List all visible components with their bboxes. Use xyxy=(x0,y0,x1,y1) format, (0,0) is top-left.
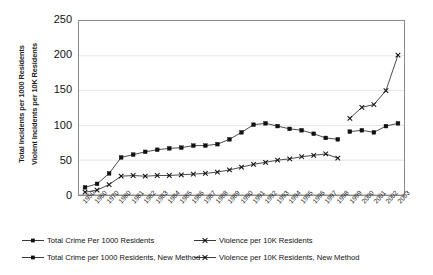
x-axis-tick-labels: 1950196019701980198119821983198419851986… xyxy=(0,196,433,230)
data-point-square xyxy=(143,150,147,154)
data-point-square xyxy=(384,124,388,128)
plot-svg xyxy=(79,21,404,195)
data-point-square xyxy=(252,123,256,127)
legend-label: Violence per 10K Residents, New Method xyxy=(219,253,359,262)
legend-item-4[interactable]: Violence per 10K Residents, New Method xyxy=(194,253,418,262)
data-point-square xyxy=(179,146,183,150)
data-point-square xyxy=(360,128,364,132)
data-point-square xyxy=(216,142,220,146)
chart-container: Total Incidents per 1000 Residents Viole… xyxy=(0,0,433,275)
data-point-square xyxy=(336,137,340,141)
series-line xyxy=(350,55,398,118)
legend-label: Total Crime Per 1000 Residents xyxy=(47,236,154,245)
legend-item-3[interactable]: Total Crime per 1000 Residents, New Meth… xyxy=(22,253,194,262)
cross-line-marker xyxy=(194,236,216,245)
y-tick-150: 150 xyxy=(38,84,72,95)
data-point-square xyxy=(276,124,280,128)
data-point-square xyxy=(372,130,376,134)
y-tick-100: 100 xyxy=(38,120,72,131)
chart-legend: Total Crime Per 1000 ResidentsViolence p… xyxy=(22,232,418,266)
series-3 xyxy=(348,121,400,134)
data-point-square xyxy=(83,185,87,189)
y-tick-200: 200 xyxy=(38,49,72,60)
data-point-square xyxy=(119,156,123,160)
data-point-square xyxy=(228,137,232,141)
data-point-square xyxy=(240,130,244,134)
data-point-square xyxy=(155,148,159,152)
y-tick-250: 250 xyxy=(38,14,72,25)
data-point-square xyxy=(288,127,292,131)
legend-label: Violence per 10K Residents xyxy=(219,236,313,245)
legend-label: Total Crime per 1000 Residents, New Meth… xyxy=(47,253,200,262)
data-point-square xyxy=(312,132,316,136)
data-point-square xyxy=(396,121,400,125)
data-point-square xyxy=(300,128,304,132)
legend-item-2[interactable]: Violence per 10K Residents xyxy=(194,236,418,245)
data-point-square xyxy=(348,130,352,134)
plot-area xyxy=(78,20,405,196)
legend-item-1[interactable]: Total Crime Per 1000 Residents xyxy=(22,236,194,245)
data-point-square xyxy=(204,144,208,148)
series-4 xyxy=(348,53,401,121)
cross-line-marker xyxy=(194,253,216,262)
y-axis-tick-labels: 250200150100500 xyxy=(38,0,72,210)
square-line-marker xyxy=(22,253,44,262)
square-line-marker xyxy=(22,236,44,245)
data-point-square xyxy=(324,136,328,140)
y-tick-50: 50 xyxy=(38,155,72,166)
y-axis-title-line-1: Total Incidents per 1000 Residents xyxy=(16,14,28,194)
data-point-square xyxy=(191,144,195,148)
data-point-square xyxy=(131,153,135,157)
data-point-square xyxy=(167,146,171,150)
data-point-square xyxy=(264,121,268,125)
